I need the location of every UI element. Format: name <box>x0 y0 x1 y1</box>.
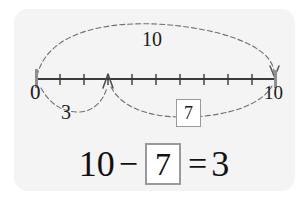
arc-label-three: 3 <box>61 102 71 122</box>
number-line-label-ten: 10 <box>264 83 283 102</box>
equation-row: 10 − 7 = 3 <box>0 143 308 185</box>
minus-sign-icon: − <box>117 147 140 181</box>
arc-label-total-ten: 10 <box>139 29 165 49</box>
arc-difference-three <box>41 87 107 112</box>
equation-result: 3 <box>211 146 229 182</box>
worksheet-canvas: 10 0 10 3 7 10 − 7 = 3 <box>0 0 308 203</box>
equation-minuend: 10 <box>79 146 115 182</box>
diagram-answer-box[interactable]: 7 <box>176 99 201 127</box>
equals-sign-icon: = <box>186 147 209 181</box>
number-line-label-zero: 0 <box>30 82 41 103</box>
equation-answer-box[interactable]: 7 <box>145 143 181 185</box>
